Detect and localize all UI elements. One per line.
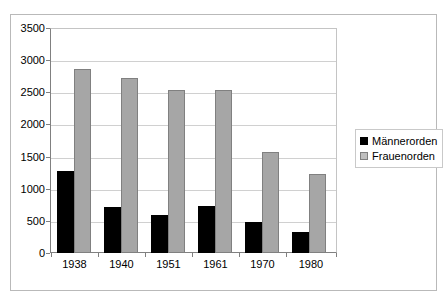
bar-group-1980 bbox=[292, 29, 328, 253]
y-axis-label-500: 500 bbox=[27, 216, 45, 227]
y-tick-0 bbox=[46, 253, 50, 254]
bar-group-1940 bbox=[104, 29, 140, 253]
legend-item-frauenorden: Frauenorden bbox=[360, 148, 437, 163]
y-axis-label-3000: 3000 bbox=[21, 55, 45, 66]
x-tick-3 bbox=[192, 253, 193, 257]
y-axis-label-0: 0 bbox=[39, 248, 45, 259]
bar-chart: 3500 3000 2500 2000 1500 1000 500 0 bbox=[0, 0, 448, 302]
bars-layer bbox=[51, 29, 336, 253]
x-tick-4 bbox=[239, 253, 240, 257]
bar-women-1951 bbox=[168, 90, 185, 253]
x-axis-label-1951: 1951 bbox=[145, 258, 192, 270]
x-tick-5 bbox=[286, 253, 287, 257]
bar-women-1970 bbox=[262, 152, 279, 253]
y-tick-2500 bbox=[46, 92, 50, 93]
y-tick-1000 bbox=[46, 189, 50, 190]
bar-women-1980 bbox=[309, 174, 326, 253]
legend-label-frauenorden: Frauenorden bbox=[372, 150, 435, 162]
y-tick-500 bbox=[46, 221, 50, 222]
bar-group-1938 bbox=[57, 29, 93, 253]
bar-group-1951 bbox=[151, 29, 187, 253]
x-axis-label-1970: 1970 bbox=[239, 258, 286, 270]
x-axis-label-1961: 1961 bbox=[192, 258, 239, 270]
bar-women-1940 bbox=[121, 78, 138, 253]
y-tick-2000 bbox=[46, 124, 50, 125]
bar-women-1938 bbox=[74, 69, 91, 253]
bar-men-1938 bbox=[57, 171, 74, 253]
bar-group-1961 bbox=[198, 29, 234, 253]
y-axis-labels: 3500 3000 2500 2000 1500 1000 500 0 bbox=[0, 0, 45, 302]
x-axis-label-1940: 1940 bbox=[98, 258, 145, 270]
y-axis-label-3500: 3500 bbox=[21, 23, 45, 34]
y-tick-3000 bbox=[46, 60, 50, 61]
y-axis-label-1000: 1000 bbox=[21, 184, 45, 195]
x-tick-2 bbox=[145, 253, 146, 257]
legend-item-mannerorden: Männerorden bbox=[360, 133, 437, 148]
bar-men-1951 bbox=[151, 215, 168, 253]
bar-men-1980 bbox=[292, 232, 309, 253]
y-axis-label-1500: 1500 bbox=[21, 152, 45, 163]
legend-swatch-icon-mannerorden bbox=[360, 137, 368, 145]
legend-swatch-icon-frauenorden bbox=[360, 152, 368, 160]
y-axis-label-2000: 2000 bbox=[21, 119, 45, 130]
x-axis-label-1938: 1938 bbox=[51, 258, 98, 270]
x-tick-1 bbox=[98, 253, 99, 257]
bar-group-1970 bbox=[245, 29, 281, 253]
legend-label-mannerorden: Männerorden bbox=[372, 135, 437, 147]
bar-men-1961 bbox=[198, 206, 215, 253]
y-tick-3500 bbox=[46, 28, 50, 29]
chart-legend: Männerorden Frauenorden bbox=[355, 129, 443, 168]
y-axis-label-2500: 2500 bbox=[21, 87, 45, 98]
bar-men-1940 bbox=[104, 207, 121, 253]
x-tick-6 bbox=[336, 253, 337, 257]
y-tick-1500 bbox=[46, 157, 50, 158]
x-tick-0 bbox=[51, 253, 52, 257]
bar-men-1970 bbox=[245, 222, 262, 253]
x-axis-label-1980: 1980 bbox=[286, 258, 336, 270]
bar-women-1961 bbox=[215, 90, 232, 253]
